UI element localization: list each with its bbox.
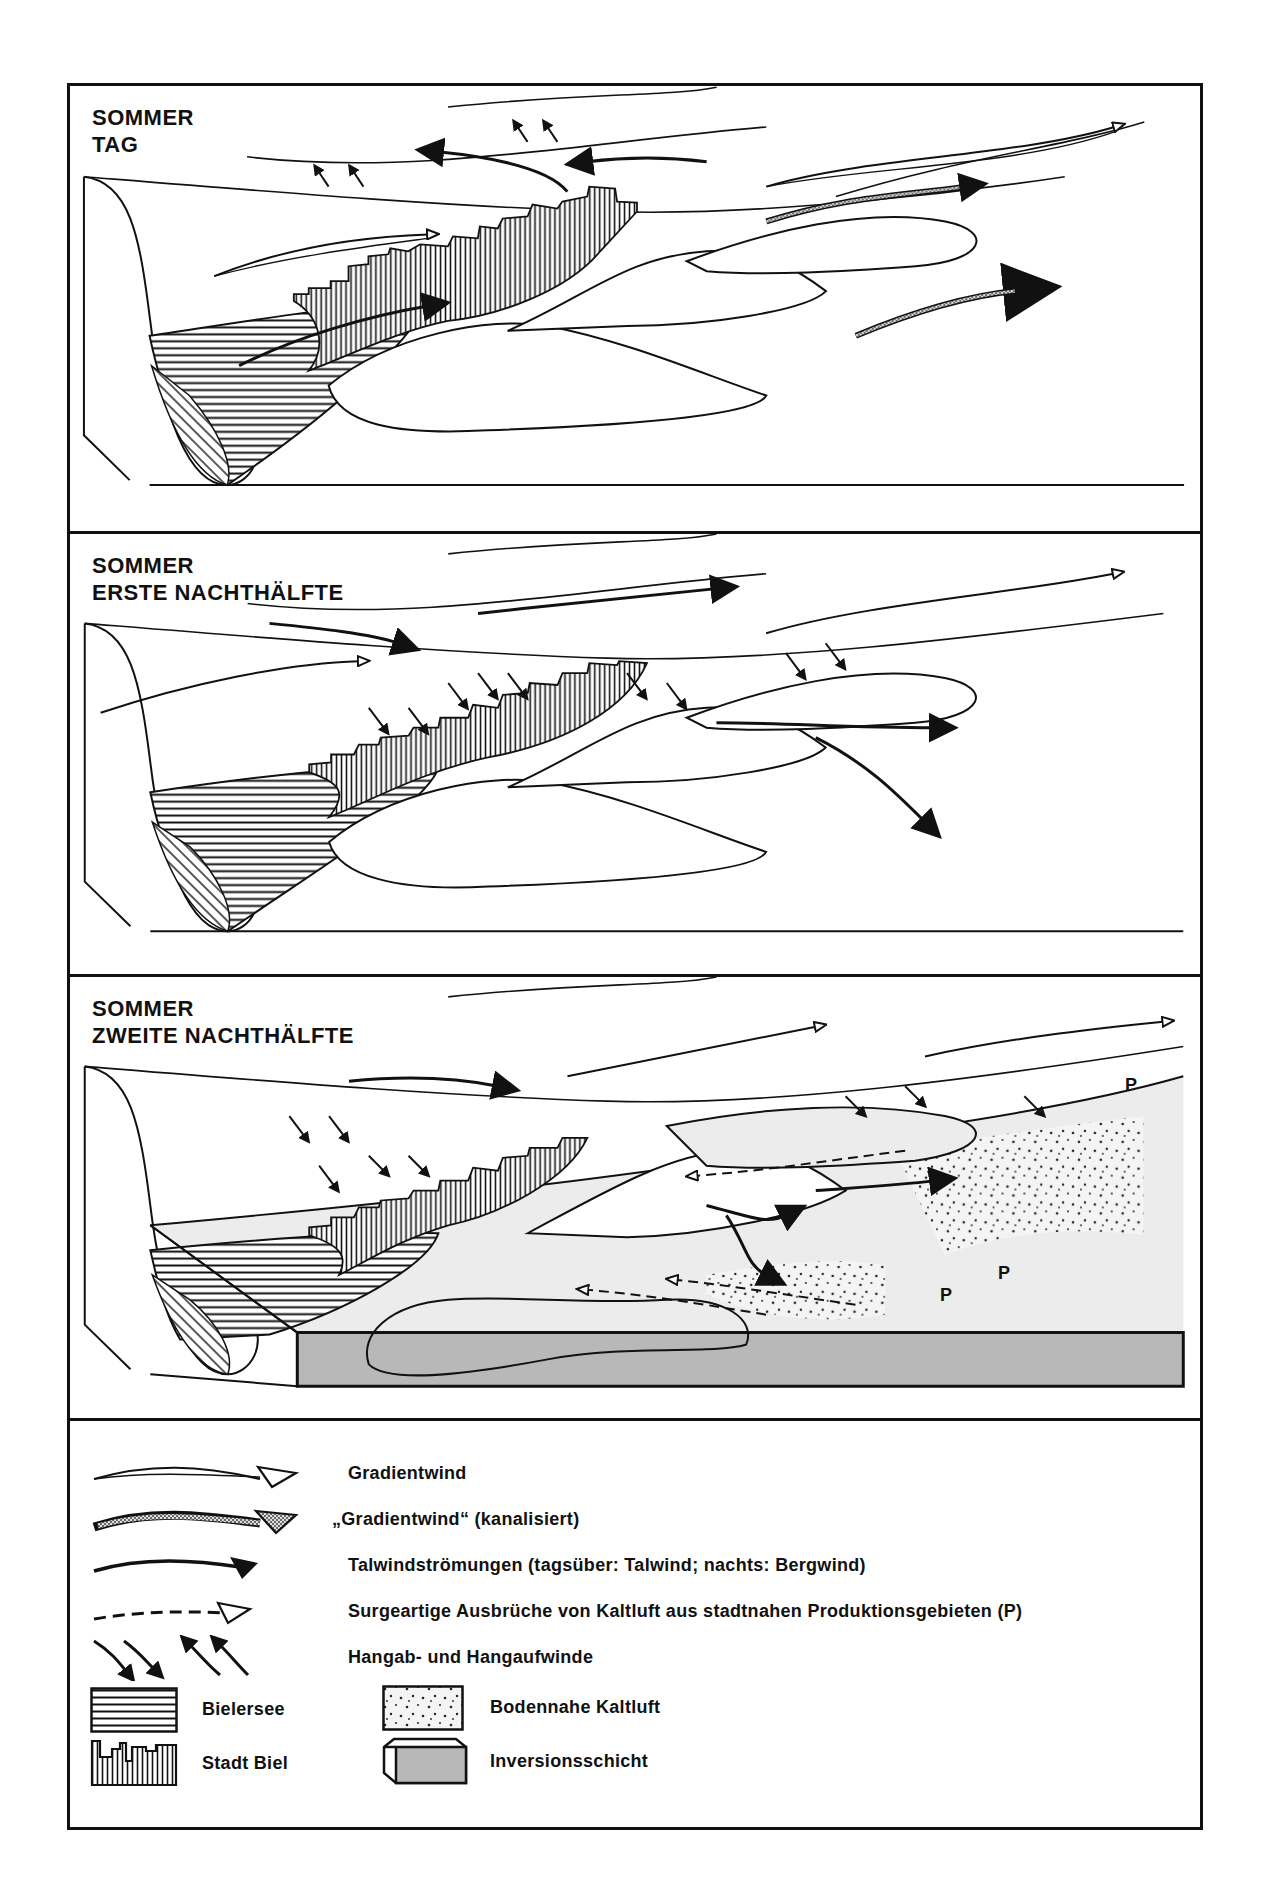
gradientwind-legend-icon — [90, 1455, 310, 1491]
diagram-frame: SOMMER TAG — [67, 83, 1203, 1830]
legend-label-valley-wind: Talwindströmungen (tagsüber: Talwind; na… — [348, 1555, 866, 1576]
production-area-label-p: P — [940, 1285, 952, 1306]
legend-label-inversionsschicht: Inversionsschicht — [490, 1751, 648, 1772]
panel-title-period: ERSTE NACHTHÄLFTE — [92, 579, 344, 606]
legend-label-bielersee: Bielersee — [202, 1699, 285, 1720]
legend-label-bodennahe-kaltluft: Bodennahe Kaltluft — [490, 1697, 660, 1718]
slope-winds-legend-icon — [90, 1635, 310, 1681]
legend-label-gradientwind: Gradientwind — [348, 1463, 467, 1484]
inversion-layer-legend-icon — [382, 1737, 468, 1787]
panel-sommer-zweite-nachthaelfte: SOMMER ZWEITE NACHTHÄLFTE P P P — [70, 974, 1200, 1418]
cold-air-surge-legend-icon — [90, 1593, 310, 1629]
panel-title-period: TAG — [92, 131, 194, 158]
valley-wind-legend-icon — [90, 1547, 310, 1583]
panel-title-season: SOMMER — [92, 104, 194, 131]
panel-title-season: SOMMER — [92, 995, 354, 1022]
panel-title-period: ZWEITE NACHTHÄLFTE — [92, 1022, 354, 1049]
panel-title: SOMMER ZWEITE NACHTHÄLFTE — [92, 995, 354, 1049]
channelled-gradientwind-legend-icon — [90, 1501, 310, 1537]
legend-label-slope-winds: Hangab- und Hangaufwinde — [348, 1647, 593, 1668]
panel-1-landscape-drawing — [70, 86, 1200, 531]
legend-label-cold-air-surge: Surgeartige Ausbrüche von Kaltluft aus s… — [348, 1601, 1022, 1622]
lake-bielersee-legend-icon — [90, 1687, 178, 1733]
production-area-label-p: P — [998, 1263, 1010, 1284]
ground-cold-air-legend-icon — [382, 1685, 464, 1731]
legend-label-channelled-gradientwind: „Gradientwind“ (kanalisiert) — [332, 1509, 579, 1530]
legend-label-stadt-biel: Stadt Biel — [202, 1753, 288, 1774]
panel-sommer-erste-nachthaelfte: SOMMER ERSTE NACHTHÄLFTE — [70, 531, 1200, 974]
panel-title-season: SOMMER — [92, 552, 344, 579]
panel-sommer-tag: SOMMER TAG — [70, 86, 1200, 531]
panel-title: SOMMER TAG — [92, 104, 194, 158]
panel-title: SOMMER ERSTE NACHTHÄLFTE — [92, 552, 344, 606]
city-biel-legend-icon — [90, 1739, 178, 1787]
production-area-label-p: P — [1125, 1075, 1137, 1096]
legend: Gradientwind „Gradientwind“ (kanalisiert… — [70, 1418, 1200, 1830]
